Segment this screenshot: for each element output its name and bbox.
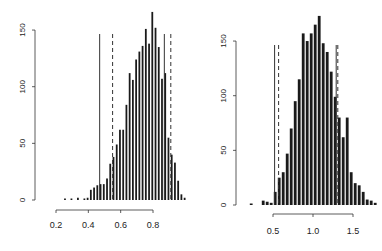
histogram-bar — [106, 178, 108, 200]
histogram-bar — [122, 130, 124, 200]
histogram-bar — [116, 144, 118, 200]
histogram-bar — [322, 43, 325, 205]
histogram-bar — [148, 44, 150, 200]
histogram-bar — [93, 188, 95, 200]
histogram-bar — [374, 203, 377, 205]
histogram-bar — [90, 190, 92, 200]
histogram-bar — [262, 201, 265, 205]
histogram-bar — [366, 200, 369, 205]
histogram-bar — [282, 172, 285, 205]
histogram-bar — [318, 16, 321, 205]
histogram-bar — [346, 118, 349, 205]
y-tick-label: 150 — [219, 34, 228, 48]
histogram-bar — [177, 181, 179, 200]
histogram-bar — [290, 128, 293, 205]
histogram-bar — [132, 80, 134, 200]
histogram-bar — [126, 105, 128, 200]
y-tick-label: 0 — [18, 197, 27, 202]
histogram-bar — [142, 46, 144, 200]
histogram-bar — [109, 164, 111, 200]
histogram-bar — [151, 12, 153, 200]
histogram-bar — [96, 185, 98, 200]
y-tick-label: 100 — [18, 79, 27, 93]
histogram-left: 0501001500.20.40.60.8 — [0, 0, 191, 251]
histogram-bar — [350, 172, 353, 205]
x-tick-label: 1.5 — [347, 226, 360, 236]
y-tick-label: 50 — [219, 145, 228, 154]
histogram-bar — [77, 198, 79, 200]
histogram-bar — [310, 33, 313, 205]
histogram-bar — [286, 154, 289, 205]
histogram-bar — [129, 73, 131, 200]
histogram-bar — [138, 52, 140, 200]
histogram-bar — [71, 199, 73, 201]
histogram-bar — [342, 137, 345, 205]
x-tick-label: 0.5 — [267, 226, 280, 236]
y-tick-label: 100 — [219, 88, 228, 102]
histogram-bar — [83, 199, 85, 201]
y-tick-label: 0 — [219, 202, 228, 207]
histogram-bar — [302, 33, 305, 205]
x-tick-label: 0.4 — [82, 220, 95, 230]
x-tick-label: 0.8 — [147, 220, 160, 230]
histogram-bar — [270, 203, 273, 205]
histogram-right: 0501001500.51.01.5 — [191, 0, 382, 251]
histogram-bar — [168, 138, 170, 200]
x-tick-label: 0.2 — [50, 220, 63, 230]
histogram-bar — [145, 29, 147, 200]
x-tick-label: 1.0 — [307, 226, 320, 236]
histogram-bar — [266, 202, 269, 205]
histogram-bar — [158, 47, 160, 200]
histogram-bar — [161, 79, 163, 200]
histogram-bar — [314, 25, 317, 205]
histogram-bar — [119, 130, 121, 200]
histogram-bar — [155, 28, 157, 200]
histogram-bar — [330, 72, 333, 205]
histogram-bar — [250, 204, 253, 206]
histogram-bar — [181, 194, 183, 200]
histogram-bar — [306, 41, 309, 205]
histogram-bar — [103, 184, 105, 200]
histogram-bar — [184, 198, 186, 200]
histogram-bar — [362, 192, 365, 205]
y-tick-label: 50 — [18, 138, 27, 147]
histogram-bar — [174, 163, 176, 200]
histogram-bar — [370, 201, 373, 205]
x-tick-label: 0.6 — [114, 220, 127, 230]
histogram-bar — [358, 185, 361, 205]
y-tick-label: 150 — [18, 23, 27, 37]
histogram-bar — [135, 60, 137, 200]
histogram-bar — [87, 198, 89, 200]
histogram-bar — [326, 52, 329, 205]
histogram-bar — [294, 101, 297, 205]
histogram-bar — [354, 183, 357, 205]
histogram-bar — [64, 199, 66, 201]
histogram-bar — [298, 79, 301, 205]
